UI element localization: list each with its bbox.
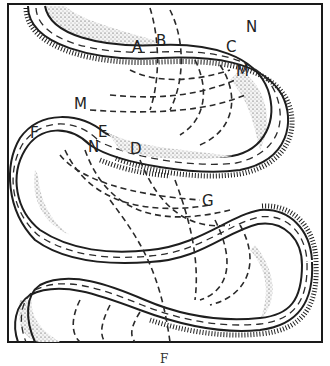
label-G: G	[202, 192, 214, 210]
label-D: D	[130, 140, 142, 158]
label-N-top: N	[246, 18, 257, 36]
label-B: B	[156, 32, 166, 50]
figure-caption: F	[160, 352, 168, 366]
label-C-top: C	[226, 38, 236, 56]
label-A: A	[132, 38, 143, 56]
label-E: E	[98, 123, 107, 141]
meander-diagram: A B C N M M F E N D G F	[0, 0, 330, 366]
label-M-mid: M	[74, 95, 87, 113]
label-F: F	[30, 124, 39, 142]
label-N-mid: N	[88, 138, 99, 156]
lower-meander	[15, 262, 316, 342]
label-M-top: M	[236, 62, 249, 80]
